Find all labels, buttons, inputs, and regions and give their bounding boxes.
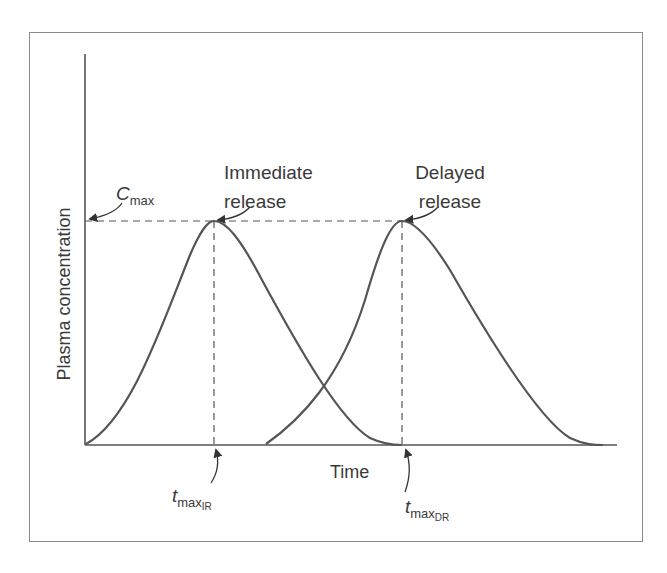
dr-label-line1: Delayed: [410, 158, 490, 187]
tmax-dr-arrow-icon: [405, 450, 409, 492]
dr-label-line2: release: [410, 187, 490, 216]
delayed-release-curve: [266, 221, 603, 445]
immediate-release-label: Immediate release: [224, 158, 313, 216]
x-axis-label: Time: [330, 463, 369, 481]
delayed-release-label: Delayed release: [410, 158, 490, 216]
tmax-ir-label: tmaxIR: [172, 486, 212, 505]
tmax-ir-subsubscript: IR: [202, 501, 212, 512]
y-axis-label: Plasma concentration: [54, 207, 75, 380]
cmax-arrow-icon: [90, 203, 122, 219]
cmax-label: Cmax: [116, 184, 154, 203]
ir-label-line2: release: [224, 187, 313, 216]
tmax-dr-subscript: max: [410, 506, 435, 521]
tmax-dr-label: tmaxDR: [405, 497, 449, 516]
tmax-ir-subscript: max: [177, 495, 202, 510]
tmax-ir-arrow-icon: [211, 450, 218, 483]
immediate-release-curve: [86, 221, 402, 445]
ir-label-line1: Immediate: [224, 158, 313, 187]
plot-area: [0, 0, 667, 573]
cmax-symbol: C: [116, 183, 130, 204]
cmax-subscript: max: [130, 193, 155, 208]
tmax-dr-subsubscript: DR: [435, 512, 449, 523]
